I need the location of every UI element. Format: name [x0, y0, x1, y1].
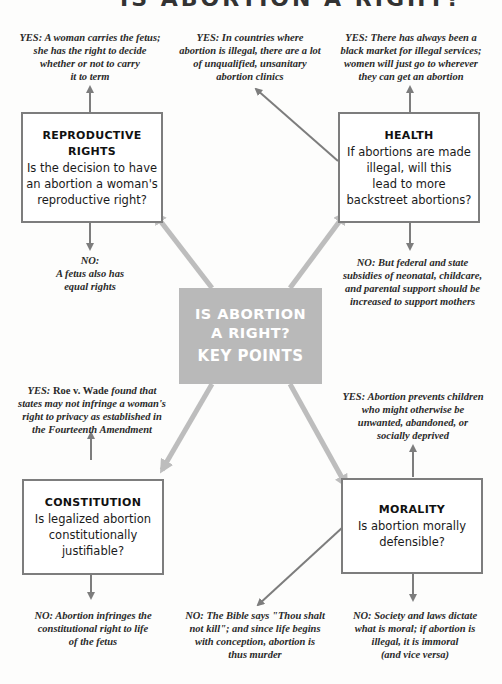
- constitution-yes-text: YES: Roe v. Wade found that states may n…: [12, 384, 172, 436]
- morality-yes-text: YES: Abortion prevents children who migh…: [338, 390, 488, 442]
- center-line-1: IS ABORTION: [179, 305, 322, 324]
- center-key-points-box: IS ABORTION A RIGHT? KEY POINTS: [179, 288, 322, 384]
- morality-title: MORALITY: [379, 502, 445, 518]
- reproductive-title: REPRODUCTIVE RIGHTS: [42, 128, 141, 160]
- constitution-no-text: NO: Abortion infringes the constitutiona…: [18, 609, 168, 648]
- reproductive-no-text: NO: A fetus also has equal rights: [30, 254, 150, 293]
- morality-box: MORALITY Is abortion morally defensible?: [341, 478, 483, 574]
- health-yes-b-text: YES: There has always been a black marke…: [330, 31, 492, 83]
- morality-no-b-text: NO: Society and laws dictate what is mor…: [340, 609, 490, 661]
- constitution-box: CONSTITUTION Is legalized abortion const…: [22, 479, 164, 575]
- center-line-3: KEY POINTS: [179, 345, 322, 367]
- center-line-2: A RIGHT?: [179, 324, 322, 343]
- reproductive-yes-text: YES: A woman carries the fetus; she has …: [10, 31, 170, 83]
- health-box: HEALTH If abortions are made illegal, wi…: [338, 112, 480, 223]
- morality-question: Is abortion morally defensible?: [358, 518, 466, 550]
- health-title: HEALTH: [385, 128, 434, 144]
- health-question: If abortions are made illegal, will this…: [347, 144, 472, 208]
- health-no-text: NO: But federal and state subsidies of n…: [330, 256, 495, 308]
- reproductive-rights-box: REPRODUCTIVE RIGHTS Is the decision to h…: [21, 112, 163, 223]
- arrow-to-reproductive: [155, 214, 212, 288]
- reproductive-question: Is the decision to have an abortion a wo…: [26, 160, 158, 208]
- constitution-title: CONSTITUTION: [45, 495, 141, 511]
- morality-no-a-text: NO: The Bible says "Thou shalt not kill"…: [180, 609, 330, 661]
- constitution-question: Is legalized abortion constitutionally j…: [35, 511, 151, 559]
- health-yes-a-text: YES: In countries where abortion is ille…: [175, 31, 325, 83]
